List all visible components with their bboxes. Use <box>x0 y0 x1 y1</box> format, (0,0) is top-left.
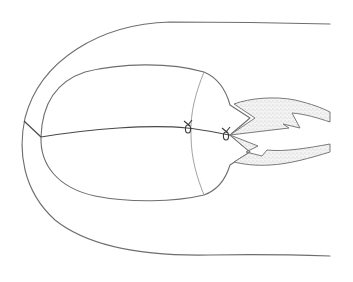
suture-line <box>41 127 230 137</box>
transverse-line <box>191 72 204 195</box>
knot-icon <box>184 120 192 133</box>
connector-line <box>24 121 41 137</box>
upper-flap <box>230 98 330 135</box>
knot-icon <box>222 127 230 140</box>
lower-flap <box>230 135 330 165</box>
outer-contour <box>22 22 330 256</box>
diagram-canvas <box>0 0 353 282</box>
